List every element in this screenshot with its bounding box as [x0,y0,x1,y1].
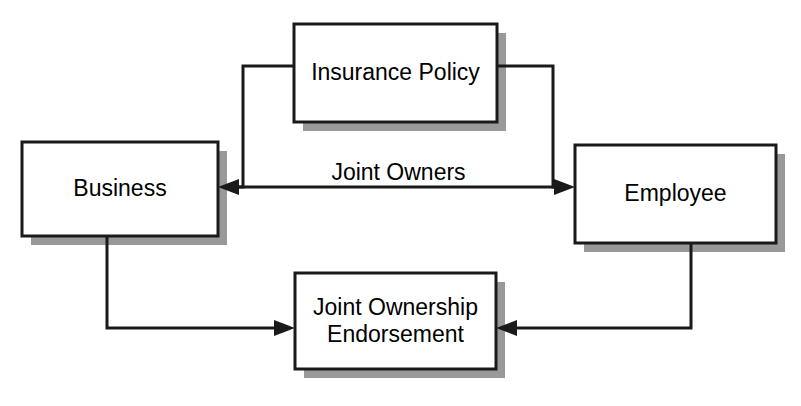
node-box-insurance-policy[interactable] [294,24,497,122]
node-box-business[interactable] [22,142,218,236]
node-box-layer [22,24,776,369]
edge-policy-to-employee-line [497,66,564,187]
diagram-graphics [0,0,801,406]
diagram-canvas: Insurance Policy Business Employee Joint… [0,0,801,406]
edge-policy-to-business-line [232,66,294,187]
arrowhead-into-endorsement-left [274,320,295,336]
node-box-joint-ownership-endorsement[interactable] [295,273,496,369]
edge-employee-to-endorsement-line [507,243,691,328]
edge-business-to-endorsement-line [107,236,284,328]
arrowhead-into-employee [554,179,575,195]
node-box-employee[interactable] [575,145,776,243]
